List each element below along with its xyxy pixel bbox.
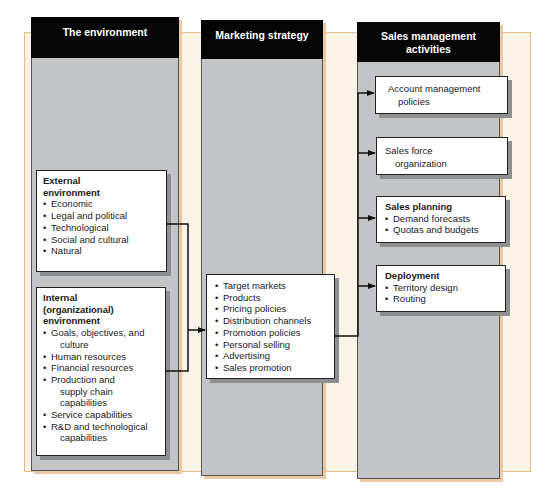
marketing-to-sales-connector [335,93,375,336]
connector-lines [0,0,557,497]
environment-to-marketing-connector [166,224,205,371]
